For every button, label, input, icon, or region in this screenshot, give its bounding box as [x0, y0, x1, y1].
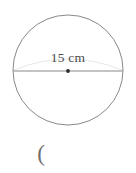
circle-diagram-svg	[0, 0, 136, 173]
figure-canvas: 15 cm (	[0, 0, 136, 173]
center-point-dot	[66, 69, 70, 73]
diameter-measurement-label: 15 cm	[0, 50, 136, 65]
trailing-parenthesis-text: (	[30, 141, 52, 167]
